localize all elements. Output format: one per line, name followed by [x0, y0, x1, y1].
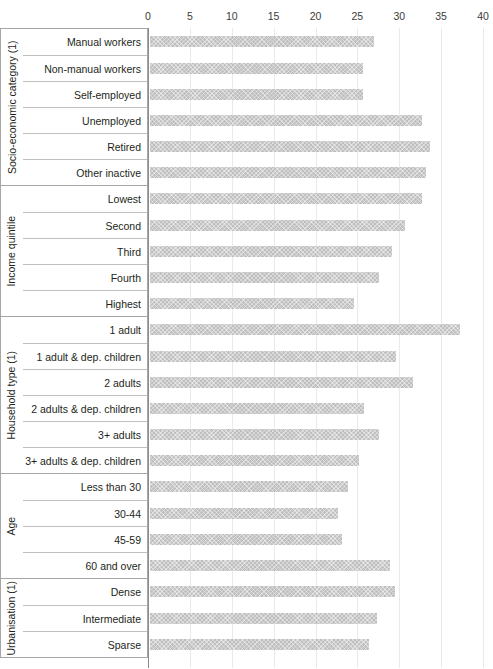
bar	[150, 481, 348, 492]
category-label: 2 adults & dep. children	[31, 396, 141, 422]
bar	[150, 455, 359, 466]
group-axis-title: Income quintile	[1, 186, 22, 316]
category-label: Unemployed	[82, 108, 141, 134]
x-axis-tick-label: 15	[268, 9, 280, 23]
category-label: Intermediate	[83, 606, 141, 632]
group-axis-title-text: Socio-economic category (1)	[6, 40, 17, 174]
bar-row: Non-manual workers	[23, 55, 147, 81]
category-group: Household type (1)1 adult1 adult & dep. …	[0, 316, 148, 473]
bar	[150, 298, 354, 309]
bar	[150, 351, 396, 362]
category-label: 1 adult & dep. children	[37, 344, 142, 370]
category-label: Sparse	[108, 632, 141, 658]
group-axis-title: Urbanisation (1)	[1, 579, 22, 657]
category-label: 30-44	[114, 501, 141, 527]
category-label: Less than 30	[81, 474, 141, 500]
group-axis-title-text: Income quintile	[6, 216, 17, 287]
bar-row: Self-employed	[23, 81, 147, 107]
category-label: Other inactive	[76, 160, 141, 186]
x-axis-tick-label: 10	[226, 9, 238, 23]
bar	[150, 89, 363, 100]
category-label: 3+ adults	[98, 422, 141, 448]
category-group: Socio-economic category (1)Manual worker…	[0, 28, 148, 185]
bar	[150, 63, 363, 74]
group-rows: DenseIntermediateSparse	[22, 579, 147, 657]
group-axis-title: Age	[1, 474, 22, 578]
bar-row: 2 adults & dep. children	[23, 395, 147, 421]
bar-row: 60 and over	[23, 552, 147, 578]
category-label: Highest	[105, 291, 141, 317]
category-label: 60 and over	[86, 553, 141, 579]
bar	[150, 272, 379, 283]
group-axis-title: Household type (1)	[1, 317, 22, 473]
bar-row: Unemployed	[23, 107, 147, 133]
x-axis-tick-labels: 0510152025303540	[0, 9, 493, 25]
bar-row: Less than 30	[23, 474, 147, 500]
x-axis-tick-label: 5	[187, 9, 193, 23]
bar-row: Retired	[23, 133, 147, 159]
bar	[150, 560, 390, 571]
group-rows: LowestSecondThirdFourthHighest	[22, 186, 147, 316]
x-axis-tick-label: 30	[393, 9, 405, 23]
horizontal-bar-chart: 0510152025303540 Socio-economic category…	[0, 0, 493, 669]
chart-category-groups: Socio-economic category (1)Manual worker…	[0, 28, 493, 658]
bar	[150, 429, 379, 440]
category-label: Non-manual workers	[44, 56, 141, 82]
bar	[150, 36, 374, 47]
category-label: 2 adults	[104, 370, 141, 396]
category-label: Retired	[107, 134, 141, 160]
bar	[150, 613, 377, 624]
bar-row: Second	[23, 212, 147, 238]
bar-row: 1 adult & dep. children	[23, 343, 147, 369]
group-rows: 1 adult1 adult & dep. children2 adults2 …	[22, 317, 147, 473]
bar	[150, 534, 342, 545]
bar-row: Lowest	[23, 186, 147, 212]
category-group: Income quintileLowestSecondThirdFourthHi…	[0, 185, 148, 316]
x-axis-tick-label: 20	[310, 9, 322, 23]
group-axis-title-text: Age	[6, 517, 17, 536]
category-label: 1 adult	[109, 317, 141, 343]
bar	[150, 246, 392, 257]
x-axis-tick-label: 40	[477, 9, 489, 23]
category-group: AgeLess than 3030-4445-5960 and over	[0, 473, 148, 578]
x-axis-tick-label: 35	[435, 9, 447, 23]
bar-row: Sparse	[23, 631, 147, 657]
bar	[150, 141, 430, 152]
bar	[150, 115, 422, 126]
bar-row: 45-59	[23, 526, 147, 552]
bar-row: Highest	[23, 290, 147, 316]
bar	[150, 586, 395, 597]
bar-row: Other inactive	[23, 159, 147, 185]
category-label: Dense	[111, 579, 141, 605]
category-label: Manual workers	[67, 29, 141, 55]
category-label: Lowest	[108, 186, 141, 212]
bar	[150, 508, 338, 519]
category-label: Fourth	[111, 265, 141, 291]
group-axis-title-text: Urbanisation (1)	[6, 581, 17, 656]
bar-row: 2 adults	[23, 369, 147, 395]
group-axis-title-text: Household type (1)	[6, 351, 17, 440]
group-rows: Less than 3030-4445-5960 and over	[22, 474, 147, 578]
bar-row: 3+ adults & dep. children	[23, 447, 147, 473]
bar-row: Manual workers	[23, 29, 147, 55]
category-group: Urbanisation (1)DenseIntermediateSparse	[0, 578, 148, 658]
bar-row: 3+ adults	[23, 421, 147, 447]
bar	[150, 220, 405, 231]
bar-row: 30-44	[23, 500, 147, 526]
category-label: 45-59	[114, 527, 141, 553]
bar-row: 1 adult	[23, 317, 147, 343]
x-axis-tick-label: 0	[145, 9, 151, 23]
bar	[150, 639, 369, 650]
category-label: Second	[105, 213, 141, 239]
bar-row: Intermediate	[23, 605, 147, 631]
category-label: Self-employed	[74, 82, 141, 108]
bar-row: Dense	[23, 579, 147, 605]
bar	[150, 324, 460, 335]
bar	[150, 193, 422, 204]
bar-row: Fourth	[23, 264, 147, 290]
category-label: Third	[117, 239, 141, 265]
bar	[150, 167, 426, 178]
bar	[150, 377, 413, 388]
group-rows: Manual workersNon-manual workersSelf-emp…	[22, 29, 147, 185]
x-axis-tick-label: 25	[352, 9, 364, 23]
